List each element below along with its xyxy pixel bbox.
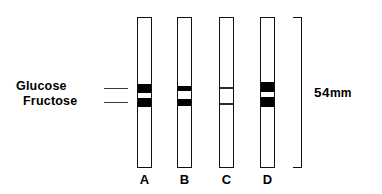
fructose-leader-line [104,102,128,103]
band-a-fructose [138,98,151,107]
chromatography-strip-c [219,17,234,168]
chromatography-figure: Glucose Fructose ABCD 54mm [0,0,382,194]
measurement-unit: mm [330,86,351,100]
band-c-glucose [220,87,233,89]
band-b-glucose [178,86,191,91]
strip-caption-c: C [219,172,234,187]
band-b-fructose [178,99,191,106]
strip-caption-b: B [177,172,192,187]
analyte-label-glucose: Glucose [16,79,102,94]
strip-caption-d: D [260,172,275,187]
chromatography-strip-d [260,17,275,168]
measurement-bracket [293,17,302,168]
band-d-glucose [261,82,274,92]
strip-caption-a: A [137,172,152,187]
measurement-value: 54 [314,85,330,100]
glucose-leader-line [104,88,128,89]
analyte-label-group: Glucose Fructose [16,79,102,109]
band-c-fructose [220,103,233,105]
analyte-label-fructose: Fructose [16,94,102,109]
band-d-fructose [261,97,274,107]
chromatography-strip-b [177,17,192,168]
chromatography-strip-a [137,17,152,168]
band-a-glucose [138,84,151,93]
measurement-label: 54mm [314,85,351,100]
